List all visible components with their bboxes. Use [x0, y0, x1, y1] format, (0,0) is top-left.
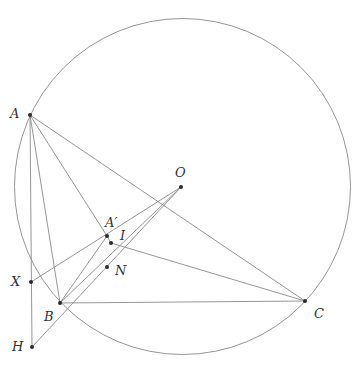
segment-B-O	[60, 187, 181, 303]
segment-A-H	[30, 115, 32, 347]
segment-A-A-prime	[30, 115, 107, 236]
point-A	[28, 113, 32, 117]
segment-A-C	[30, 115, 305, 301]
segment-A-B	[30, 115, 60, 303]
label-H: H	[11, 339, 24, 354]
point-A-prime	[105, 234, 109, 238]
point-B	[58, 301, 62, 305]
point-I	[109, 241, 113, 245]
geometry-diagram: AOA′INXBCH	[0, 0, 360, 374]
label-I: I	[119, 228, 126, 243]
point-O	[179, 185, 183, 189]
point-N	[105, 265, 109, 269]
segment-B-A-prime	[60, 236, 107, 303]
segment-B-C	[60, 301, 305, 303]
label-C: C	[314, 306, 324, 321]
point-C	[303, 299, 307, 303]
labels-group: AOA′INXBCH	[9, 106, 324, 354]
label-A: A	[9, 106, 19, 121]
segment-I-C	[111, 243, 305, 301]
label-X: X	[10, 274, 21, 289]
label-B: B	[43, 309, 54, 324]
point-H	[30, 345, 34, 349]
label-A-prime: A′	[104, 215, 117, 230]
point-X	[29, 280, 33, 284]
label-N: N	[114, 263, 127, 278]
label-O: O	[175, 165, 186, 180]
points-group	[28, 113, 307, 349]
